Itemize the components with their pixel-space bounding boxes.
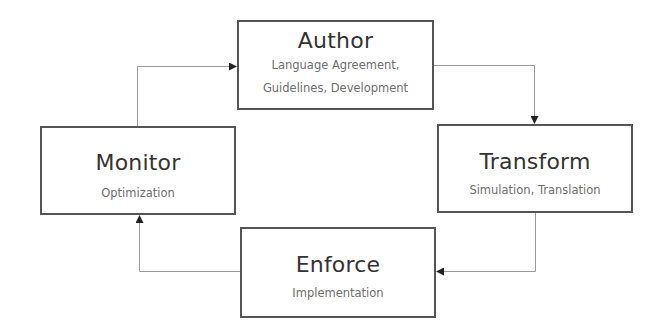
node-enforce: Enforce Implementation bbox=[240, 227, 436, 318]
node-author: Author Language Agreement, Guidelines, D… bbox=[237, 20, 434, 110]
cycle-diagram: Author Language Agreement, Guidelines, D… bbox=[0, 0, 664, 335]
node-author-title: Author bbox=[298, 30, 373, 52]
node-author-subtitle-line-2: Guidelines, Development bbox=[263, 83, 408, 95]
node-monitor: Monitor Optimization bbox=[40, 126, 236, 215]
node-transform-subtitle: Simulation, Translation bbox=[469, 185, 600, 197]
node-enforce-title: Enforce bbox=[296, 254, 381, 276]
node-transform: Transform Simulation, Translation bbox=[437, 124, 633, 213]
connector-enforce-to-monitor bbox=[140, 216, 241, 272]
node-enforce-subtitle: Implementation bbox=[292, 288, 383, 300]
connector-monitor-to-author bbox=[138, 67, 237, 127]
node-transform-title: Transform bbox=[479, 151, 590, 173]
node-monitor-subtitle: Optimization bbox=[101, 188, 175, 200]
node-author-subtitle-line-1: Language Agreement, bbox=[272, 60, 400, 72]
connector-transform-to-enforce bbox=[437, 213, 536, 272]
node-monitor-title: Monitor bbox=[95, 152, 180, 174]
connector-author-to-transform bbox=[434, 66, 535, 124]
